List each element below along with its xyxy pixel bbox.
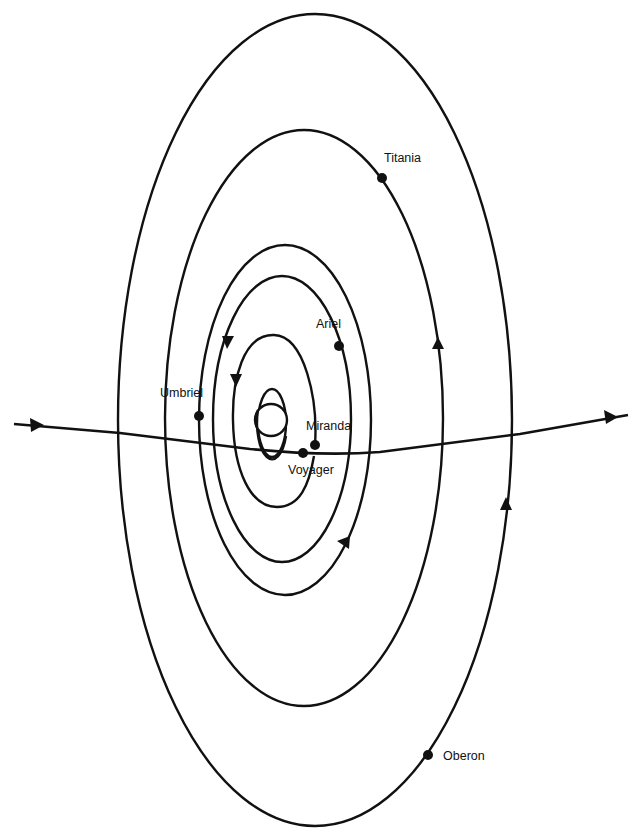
trajectory-arrow-out-icon	[604, 410, 618, 424]
umbriel-label: Umbriel	[160, 387, 203, 400]
oberon-dot	[423, 750, 433, 760]
titania-label: Titania	[384, 152, 421, 165]
titania-orbit-arrow-icon	[432, 337, 444, 349]
oberon-orbit-arrow-icon	[500, 497, 512, 510]
umbriel-dot	[194, 411, 204, 421]
trajectory-arrow-in-icon	[30, 418, 44, 432]
ariel-label: Ariel	[316, 318, 341, 331]
miranda-label: Miranda	[306, 420, 351, 433]
oberon-label: Oberon	[443, 750, 485, 763]
miranda-dot	[310, 440, 320, 450]
ariel-orbit-arrow-icon	[230, 374, 242, 387]
titania-dot	[377, 173, 387, 183]
ariel-dot	[334, 341, 344, 351]
voyager-label: Voyager	[288, 464, 334, 477]
voyager-dot	[298, 448, 308, 458]
titania-orbit	[165, 130, 443, 706]
